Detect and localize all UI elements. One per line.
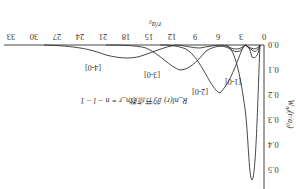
svg-text:0.3: 0.3 [268,115,279,125]
chart-container: 0 3 6 9 12 15 18 21 24 27 30 33 r/a₀ 0.0… [0,0,296,189]
chart-svg: 0 3 6 9 12 15 18 21 24 27 30 33 r/a₀ 0.0… [0,0,296,189]
y-axis-label: Wnl(r/a₀) [285,100,295,129]
svg-text:Wnl(r/a₀): Wnl(r/a₀) [285,100,295,129]
svg-text:0.4: 0.4 [267,140,278,150]
svg-text:0: 0 [262,32,266,42]
series-2-0 [160,45,260,93]
svg-text:0.0: 0.0 [268,40,279,50]
svg-text:9: 9 [193,32,197,42]
svg-text:33: 33 [7,32,16,42]
y-tick-labels: 0.0 0.1 0.2 0.3 0.4 0.5 0.6 [267,40,278,189]
svg-text:30: 30 [30,32,39,42]
label-4-0: [4-0] [85,63,101,72]
series-1-0 [226,45,260,180]
svg-text:0.5: 0.5 [268,165,279,175]
node-count-annotation: R_nl(r) 的节点数n_r = n − l − 1 [80,96,188,105]
svg-text:0.6: 0.6 [268,187,279,189]
svg-text:15: 15 [145,32,154,42]
svg-text:3: 3 [239,32,243,42]
x-tick-labels: 0 3 6 9 12 15 18 21 24 27 30 33 [7,32,266,42]
svg-text:0.2: 0.2 [268,90,279,100]
label-1-0: [1-0] [225,77,241,86]
svg-text:24: 24 [75,32,84,42]
svg-text:6: 6 [216,32,220,42]
svg-text:12: 12 [168,32,177,42]
svg-text:18: 18 [122,32,131,42]
svg-text:0.1: 0.1 [268,65,279,75]
svg-text:27: 27 [53,32,62,42]
label-3-0: [3-0] [144,70,160,79]
x-axis-label: r/a₀ [149,20,161,29]
label-2-0: [2-0] [192,87,208,96]
svg-text:21: 21 [99,32,108,42]
